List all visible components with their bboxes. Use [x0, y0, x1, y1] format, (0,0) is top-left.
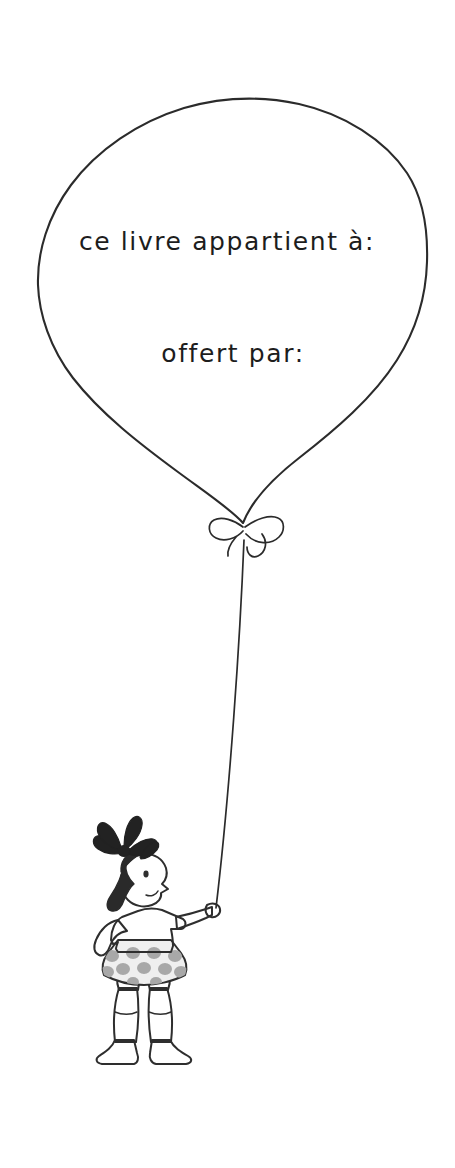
bow-knot [209, 517, 283, 557]
giver-line-text: offert par: [161, 339, 304, 368]
balloon-string [216, 540, 244, 908]
hair-bow-icon [93, 816, 158, 859]
balloon-outline [38, 99, 427, 523]
balloon [38, 99, 427, 523]
sock-line-right [149, 1012, 171, 1014]
bow-left-loop [209, 518, 243, 539]
bookplate-page: ce livre appartient à: offert par: [0, 0, 455, 1168]
leg-left [114, 988, 138, 1042]
bookplate-illustration: ce livre appartient à: offert par: [0, 0, 455, 1168]
sock-line-left [115, 1012, 137, 1014]
leg-right [149, 988, 172, 1042]
shoe-right [150, 1040, 191, 1064]
girl-figure [93, 816, 220, 1064]
owner-line-text: ce livre appartient à: [79, 227, 375, 256]
eye [143, 871, 148, 878]
mouth [146, 891, 158, 896]
shoe-left [97, 1040, 138, 1064]
